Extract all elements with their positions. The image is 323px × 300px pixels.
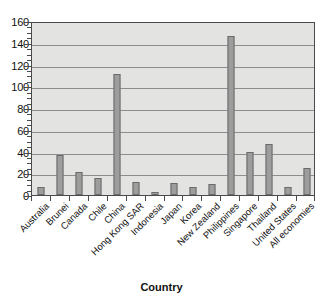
bar[interactable] (76, 172, 83, 195)
bar-slot (70, 23, 89, 195)
bar[interactable] (38, 187, 45, 195)
y-axis-major-tick (24, 196, 31, 197)
bar[interactable] (57, 155, 64, 195)
bar[interactable] (189, 187, 196, 195)
bar-slot (221, 23, 240, 195)
y-axis-ticks (24, 22, 31, 197)
bar-slot (89, 23, 108, 195)
y-axis-major-tick (24, 153, 31, 154)
x-axis-category-labels: AustraliaBruneiCanadaChileChinaHong Kong… (31, 201, 315, 275)
y-axis-major-tick (24, 131, 31, 132)
bar[interactable] (246, 152, 253, 196)
bar[interactable] (152, 192, 159, 195)
bar-slot (183, 23, 202, 195)
y-axis-major-tick (24, 44, 31, 45)
plot-area (31, 22, 315, 196)
bar-series (32, 23, 314, 195)
bar[interactable] (284, 187, 291, 195)
bar-slot (259, 23, 278, 195)
bar-slot (165, 23, 184, 195)
bar-slot (51, 23, 70, 195)
bar-slot (32, 23, 51, 195)
bar[interactable] (133, 182, 140, 195)
bar[interactable] (114, 74, 121, 195)
bar[interactable] (95, 178, 102, 195)
bar-slot (108, 23, 127, 195)
bar[interactable] (303, 168, 310, 195)
bar-slot (278, 23, 297, 195)
x-axis-title: Country (0, 281, 323, 293)
y-axis-major-tick (24, 87, 31, 88)
bar-slot (127, 23, 146, 195)
y-axis-major-tick (24, 174, 31, 175)
y-axis-major-tick (24, 66, 31, 67)
bar-slot (146, 23, 165, 195)
bar[interactable] (208, 184, 215, 195)
bar[interactable] (265, 144, 272, 195)
bar-slot (202, 23, 221, 195)
bar[interactable] (227, 36, 234, 195)
bar-chart: 020406080100120140160 AustraliaBruneiCan… (0, 0, 323, 300)
bar-slot (240, 23, 259, 195)
y-axis-major-tick (24, 22, 31, 23)
bar-slot (297, 23, 315, 195)
bar[interactable] (170, 183, 177, 195)
y-axis-major-tick (24, 109, 31, 110)
